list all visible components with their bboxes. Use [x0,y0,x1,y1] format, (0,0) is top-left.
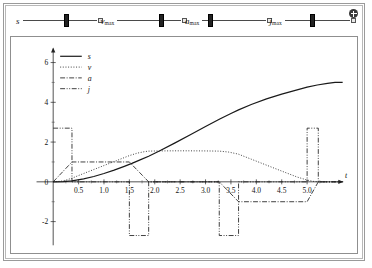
slider-label-v: vmax [101,17,115,26]
slider-label-s: s [16,17,20,26]
legend-label-j: j [87,85,90,94]
y-axis-ticks: -20246 [42,58,56,226]
svg-text:0: 0 [45,178,49,187]
slider-track[interactable] [23,13,97,29]
slider-a-max[interactable]: amax [185,13,266,29]
slider-j-max[interactable]: jmax [270,13,351,29]
gear-plus-icon[interactable] [349,9,358,18]
series-s [53,82,342,181]
motion-profile-chart: 0.51.01.52.02.53.03.54.04.55.0-20246tsva… [11,37,357,253]
series-v [53,151,342,182]
plot-panel: 0.51.01.52.02.53.03.54.04.55.0-20246tsva… [10,36,358,254]
legend-label-s: s [88,52,91,61]
slider-label-a: amax [185,17,199,26]
svg-text:-2: -2 [42,217,49,226]
slider-track[interactable] [117,13,181,29]
slider-s[interactable]: s [16,13,97,29]
slider-rail [117,20,181,21]
svg-text:6: 6 [45,58,49,67]
svg-text:2.0: 2.0 [150,186,160,195]
app-window-inner-frame: svmaxamaxjmax 0.51.01.52.02.53.03.54.04.… [5,5,363,259]
slider-v-max[interactable]: vmax [101,13,182,29]
axes [37,48,344,246]
legend-label-a: a [88,74,92,83]
slider-track[interactable] [285,13,350,29]
x-axis-label: t [345,172,348,181]
slider-thumb[interactable] [208,14,213,27]
svg-text:4: 4 [45,98,49,107]
svg-text:2.5: 2.5 [175,186,185,195]
slider-rail [285,20,350,21]
slider-label-j: jmax [270,17,282,26]
app-window: svmaxamaxjmax 0.51.01.52.02.53.03.54.04.… [3,3,365,261]
svg-text:4.0: 4.0 [252,186,262,195]
slider-thumb[interactable] [310,14,315,27]
svg-text:2: 2 [45,138,49,147]
slider-track[interactable] [202,13,265,29]
slider-rail [23,20,97,21]
slider-thumb[interactable] [159,14,164,27]
legend-label-v: v [88,63,92,72]
svg-text:3.0: 3.0 [201,186,211,195]
slider-thumb[interactable] [64,14,69,27]
slider-toolbar: svmaxamaxjmax [8,8,360,34]
svg-text:5.0: 5.0 [302,186,312,195]
chart-legend: svaj [60,52,92,93]
slider-end-marker[interactable] [351,18,356,23]
svg-text:4.5: 4.5 [277,186,287,195]
svg-text:0.5: 0.5 [74,186,84,195]
svg-text:1.0: 1.0 [99,186,109,195]
